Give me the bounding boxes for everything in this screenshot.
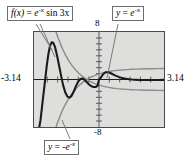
plot-viewport: [33, 31, 165, 128]
callout-envelope-positive-label: y = e-x: [112, 6, 144, 21]
plot-canvas: [34, 32, 164, 127]
y-axis-min-label: -8: [94, 128, 102, 137]
envelope-positive-curve: [56, 32, 164, 90]
callout-envpos-exp: -x: [135, 6, 140, 14]
x-axis-min-label: -3.14: [1, 74, 21, 84]
callout-envneg-exp: -x: [70, 140, 75, 148]
callout-envneg-eq: =: [52, 142, 62, 152]
callout-envpos-eq: =: [120, 8, 130, 18]
damped-sine-curve: [39, 42, 164, 127]
damped-oscillation-figure: -3.14 3.14 8 -8 f(x) = e-x sin 3x y = e-…: [0, 0, 196, 160]
y-axis-max-label: 8: [95, 19, 100, 28]
callout-envelope-negative-label: y = -e-x: [44, 140, 79, 155]
callout-function-lhs: f(x): [11, 8, 24, 18]
envelope-negative-curve: [56, 69, 164, 127]
callout-function-label: f(x) = e-x sin 3x: [7, 6, 73, 21]
x-axis-max-label: 3.14: [167, 74, 184, 84]
callout-function-trail: sin 3x: [44, 8, 69, 18]
callout-function-eq: =: [24, 8, 34, 18]
